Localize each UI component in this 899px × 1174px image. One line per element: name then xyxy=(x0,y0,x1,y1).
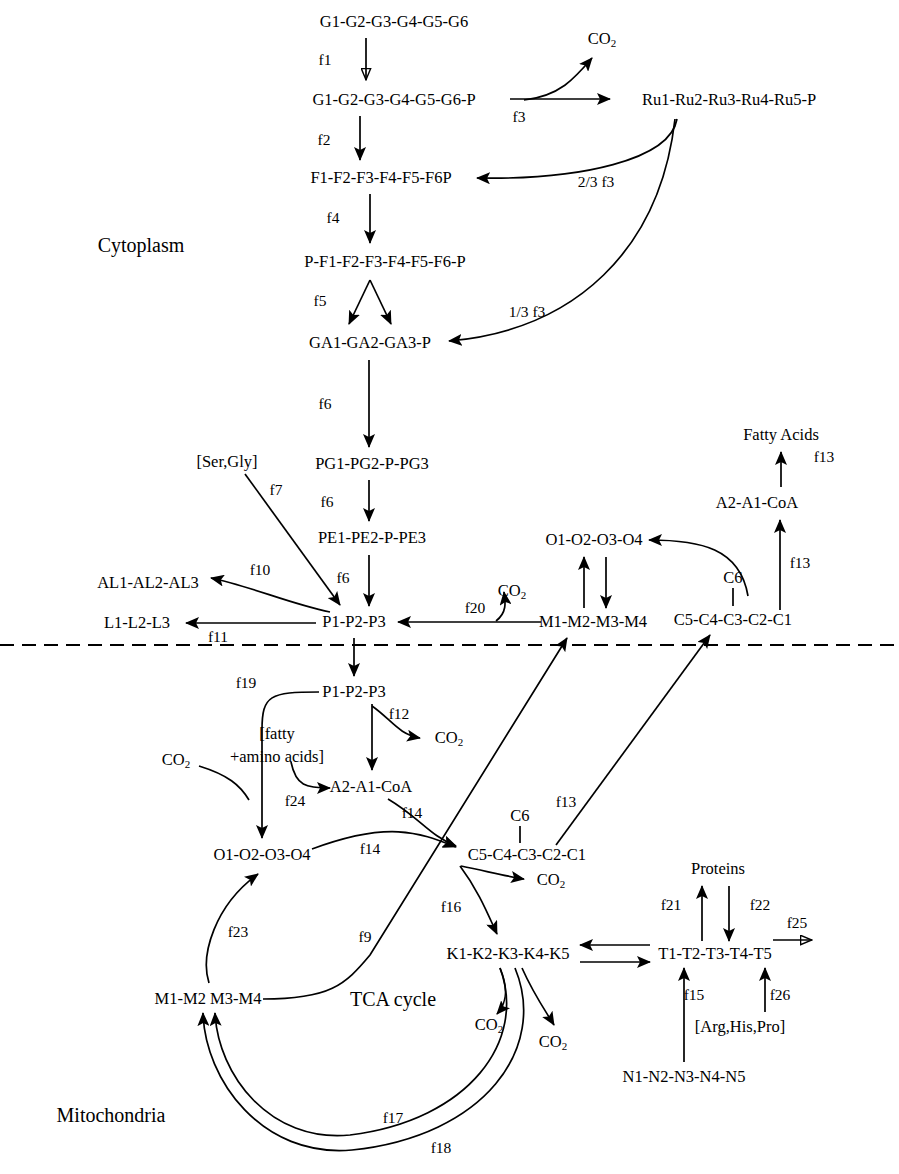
metabolite-pyruvate-cytoplasm: P1-P2-P3 xyxy=(322,614,385,631)
metabolite-c6-cytoplasm: C6 xyxy=(723,570,742,587)
metabolite-glucose-6-phosphate: G1-G2-G3-G4-G5-G6-P xyxy=(312,92,475,109)
flux-label-f21: f21 xyxy=(661,897,682,913)
metabolite-glyceraldehyde-3-phosphate: GA1-GA2-GA3-P xyxy=(309,335,431,352)
arrow-f16-co2 xyxy=(461,866,524,879)
metabolite-co2-f20: CO2 xyxy=(498,583,526,601)
arrow-f3-one-third xyxy=(449,119,675,341)
arrow-akg-co2-b xyxy=(522,968,554,1025)
arrow-f3-two-thirds xyxy=(477,119,677,178)
metabolite-fatty-acids: Fatty Acids xyxy=(743,427,819,444)
flux-label-f13-b: f13 xyxy=(790,555,811,571)
flux-label-f3-one-third: 1/3 f3 xyxy=(509,304,546,320)
flux-label-f14-b: f14 xyxy=(360,841,381,857)
metabolite-co2-f19: CO2 xyxy=(162,752,190,770)
flux-label-f6-a: f6 xyxy=(319,396,332,412)
flux-label-f13-a: f13 xyxy=(814,449,835,465)
metabolite-co2-tca-b: CO2 xyxy=(539,1034,567,1052)
metabolite-co2-tca-a: CO2 xyxy=(475,1017,503,1035)
metabolite-fructose-6-phosphate: F1-F2-F3-F4-F5-F6P xyxy=(310,170,451,187)
metabolite-phosphoglycerate: PG1-PG2-P-PG3 xyxy=(315,456,429,473)
metabolite-glutamine: N1-N2-N3-N4-N5 xyxy=(623,1069,746,1086)
arrow-akg-co2-a xyxy=(497,968,506,1014)
metabolite-proteins: Proteins xyxy=(691,861,745,878)
flux-label-f11: f11 xyxy=(208,629,228,645)
metabolite-lactate: L1-L2-L3 xyxy=(104,615,170,632)
metabolite-fructose-bisphosphate: P-F1-F2-F3-F4-F5-F6-P xyxy=(304,254,465,271)
flux-label-f25: f25 xyxy=(787,915,808,931)
metabolite-malate-mitochondria: M1-M2 M3-M4 xyxy=(155,991,262,1008)
flux-label-f16: f16 xyxy=(441,899,462,915)
metabolite-pyruvate-mitochondria: P1-P2-P3 xyxy=(322,684,385,701)
metabolite-alanine: AL1-AL2-AL3 xyxy=(97,575,199,592)
metabolite-phosphoenolpyruvate: PE1-PE2-P-PE3 xyxy=(318,530,426,547)
metabolite-citrate-mitochondria: C5-C4-C3-C2-C1 xyxy=(468,847,586,864)
flux-label-f10: f10 xyxy=(250,562,271,578)
flux-label-f3-two-thirds: 2/3 f3 xyxy=(578,174,615,190)
metabolite-co2-f16: CO2 xyxy=(537,872,565,890)
flux-label-f12: f12 xyxy=(389,706,410,722)
flux-label-f22: f22 xyxy=(750,897,771,913)
arrow-f3-co2 xyxy=(524,58,592,100)
arrow-f24 xyxy=(291,762,330,788)
metabolite-co2-f3: CO2 xyxy=(588,31,616,49)
arrow-f10 xyxy=(211,578,330,612)
arrow-f5-left xyxy=(349,280,370,324)
flux-label-f20: f20 xyxy=(465,600,486,616)
metabolite-ribulose-5-phosphate: Ru1-Ru2-Ru3-Ru4-Ru5-P xyxy=(642,92,816,109)
metabolite-glutamate: T1-T2-T3-T4-T5 xyxy=(658,946,772,963)
flux-label-f6-b: f6 xyxy=(321,494,334,510)
flux-label-f13-c: f13 xyxy=(556,794,577,810)
metabolite-oxaloacetate-mitochondria: O1-O2-O3-O4 xyxy=(213,847,310,864)
flux-label-f17: f17 xyxy=(383,1110,404,1126)
flux-label-f23: f23 xyxy=(228,924,249,940)
compartment-label-cytoplasm: Cytoplasm xyxy=(98,235,185,255)
flux-label-f24: f24 xyxy=(285,793,306,809)
flux-label-f7: f7 xyxy=(270,482,283,498)
metabolite-ser-gly: [Ser,Gly] xyxy=(196,454,257,471)
flux-label-f1: f1 xyxy=(319,52,332,68)
compartment-label-mitochondria: Mitochondria xyxy=(57,1105,166,1125)
metabolite-acetyl-coa-cytoplasm: A2-A1-CoA xyxy=(716,495,799,512)
metabolite-co2-f12: CO2 xyxy=(435,730,463,748)
metabolite-alpha-ketoglutarate: K1-K2-K3-K4-K5 xyxy=(447,946,570,963)
metabolite-fatty-amino-acids-line1: [fatty xyxy=(259,726,295,743)
metabolite-glucose: G1-G2-G3-G4-G5-G6 xyxy=(320,14,468,31)
metabolite-fatty-amino-acids-line2: +amino acids] xyxy=(230,749,324,766)
metabolite-acetyl-coa-mitochondria: A2-A1-CoA xyxy=(330,779,413,796)
arrow-co2-f19 xyxy=(199,766,249,800)
flux-label-f6-c: f6 xyxy=(337,570,350,586)
compartment-label-tca-cycle: TCA cycle xyxy=(350,989,436,1009)
flux-label-f2: f2 xyxy=(318,132,331,148)
flux-label-f5: f5 xyxy=(314,293,327,309)
metabolite-citrate-cytoplasm: C5-C4-C3-C2-C1 xyxy=(674,612,792,629)
metabolite-oxaloacetate-cytoplasm: O1-O2-O3-O4 xyxy=(545,532,642,549)
metabolite-c6-mitochondria: C6 xyxy=(510,808,529,825)
flux-label-f26: f26 xyxy=(770,987,791,1003)
flux-label-f19: f19 xyxy=(236,675,257,691)
flux-label-f9: f9 xyxy=(359,929,372,945)
metabolite-malate-cytoplasm: M1-M2-M3-M4 xyxy=(539,614,647,631)
metabolite-arg-his-pro: [Arg,His,Pro] xyxy=(695,1019,785,1036)
flux-label-f3: f3 xyxy=(513,109,526,125)
flux-label-f14-a: f14 xyxy=(402,805,423,821)
flux-label-f15: f15 xyxy=(684,987,705,1003)
arrow-f13-long xyxy=(556,635,710,845)
arrow-f5-right xyxy=(370,280,391,324)
flux-label-f18: f18 xyxy=(431,1140,452,1156)
arrow-f16 xyxy=(460,866,497,934)
flux-label-f4: f4 xyxy=(327,210,340,226)
pathway-diagram-canvas: Cytoplasm Mitochondria TCA cycle G1-G2-G… xyxy=(0,0,899,1174)
